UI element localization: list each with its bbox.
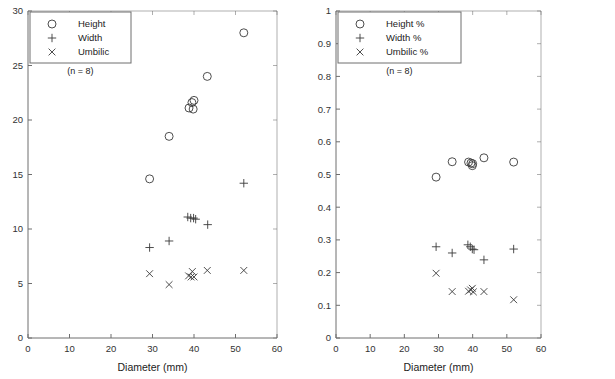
legend-label: Width % (386, 32, 422, 43)
x-tick-label: 0 (333, 343, 338, 354)
y-tick-label: 15 (12, 169, 23, 180)
plus-marker (191, 215, 199, 223)
y-tick-label: 20 (12, 114, 23, 125)
sample-size-label: (n = 8) (67, 66, 93, 76)
plus-marker (480, 256, 488, 264)
circle-marker (240, 29, 248, 37)
x-axis-title: Diameter (mm) (404, 361, 474, 373)
y-tick-label: 0.2 (318, 267, 331, 278)
circle-marker (480, 154, 488, 162)
circle-marker (203, 72, 211, 80)
cross-marker (146, 270, 153, 277)
x-tick-label: 30 (147, 343, 158, 354)
x-axis-title: Diameter (mm) (118, 361, 188, 373)
x-tick-label: 20 (399, 343, 410, 354)
plus-marker (432, 243, 440, 251)
y-tick-label: 0.9 (318, 38, 331, 49)
series-umbilic (146, 267, 247, 288)
y-tick-label: 30 (12, 5, 23, 16)
scatter-panel-right: 010203040506000.10.20.30.40.50.60.70.80.… (308, 0, 615, 379)
series-width (432, 241, 518, 264)
legend-label: Height % (386, 18, 425, 29)
y-tick-label: 0.7 (318, 104, 331, 115)
cross-marker (166, 281, 173, 288)
y-tick-label: 0.5 (318, 169, 331, 180)
y-tick-label: 0.6 (318, 136, 331, 147)
circle-marker (432, 173, 440, 181)
plus-marker (448, 249, 456, 257)
cross-marker (189, 268, 196, 275)
figure-container: 0102030405060051015202530Diameter (mm)He… (0, 0, 615, 379)
circle-marker (448, 158, 456, 166)
plus-marker (145, 243, 153, 251)
y-tick-label: 0.1 (318, 300, 331, 311)
y-tick-label: 10 (12, 223, 23, 234)
circle-marker (190, 96, 198, 104)
y-tick-label: 5 (18, 278, 23, 289)
circle-marker (165, 132, 173, 140)
scatter-plot-left-svg: 0102030405060051015202530Diameter (mm)He… (0, 0, 307, 379)
series-umbilic (433, 270, 517, 303)
series-height (146, 29, 248, 183)
plus-marker (468, 245, 476, 253)
plus-marker (464, 241, 472, 249)
y-tick-label: 0 (326, 332, 331, 343)
circle-marker (510, 158, 518, 166)
cross-marker (433, 270, 440, 277)
x-tick-label: 40 (189, 343, 200, 354)
legend-label: Umbilic % (386, 46, 429, 57)
x-tick-label: 20 (106, 343, 117, 354)
y-tick-label: 1 (326, 5, 331, 16)
series-height (432, 154, 518, 181)
y-tick-label: 25 (12, 60, 23, 71)
y-tick-label: 0.8 (318, 71, 331, 82)
scatter-plot-right-svg: 010203040506000.10.20.30.40.50.60.70.80.… (308, 0, 615, 379)
x-tick-label: 10 (64, 343, 75, 354)
y-tick-label: 0.3 (318, 234, 331, 245)
x-tick-label: 50 (230, 343, 241, 354)
plus-marker (165, 237, 173, 245)
scatter-panel-left: 0102030405060051015202530Diameter (mm)He… (0, 0, 307, 379)
plus-marker (240, 179, 248, 187)
legend-label: Width (78, 32, 102, 43)
x-tick-label: 0 (25, 343, 30, 354)
legend-label: Umbilic (78, 46, 109, 57)
cross-marker (481, 288, 488, 295)
x-tick-label: 10 (365, 343, 376, 354)
x-tick-label: 30 (433, 343, 444, 354)
circle-marker (146, 175, 154, 183)
cross-marker (449, 288, 456, 295)
x-tick-label: 60 (272, 343, 283, 354)
x-tick-label: 60 (536, 343, 547, 354)
cross-marker (204, 267, 211, 274)
cross-marker (510, 296, 517, 303)
plus-marker (509, 245, 517, 253)
legend-label: Height (78, 18, 106, 29)
cross-marker (240, 267, 247, 274)
y-tick-label: 0 (18, 332, 23, 343)
sample-size-label: (n = 8) (386, 66, 412, 76)
y-tick-label: 0.4 (318, 202, 331, 213)
x-tick-label: 50 (502, 343, 513, 354)
x-tick-label: 40 (467, 343, 478, 354)
plus-marker (203, 220, 211, 228)
series-width (145, 179, 248, 252)
